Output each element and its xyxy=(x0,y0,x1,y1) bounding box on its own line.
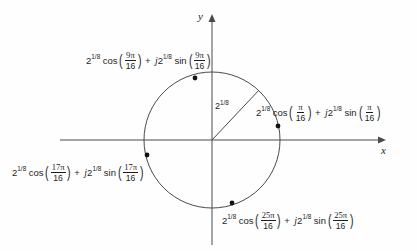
cos-function: cos xyxy=(273,108,288,118)
radius-exponent: 1/8 xyxy=(220,99,229,106)
paren-open-icon: ( xyxy=(328,215,332,227)
radius-segment xyxy=(212,91,259,141)
paren-close-icon: ) xyxy=(207,55,211,67)
angle-fraction: π 16 xyxy=(364,103,376,122)
angle-fraction: 9π 16 xyxy=(125,51,137,70)
paren-close-icon: ) xyxy=(277,215,281,227)
sin-function: sin xyxy=(314,216,326,226)
angle-numerator: 9π xyxy=(125,51,136,61)
label-point-17pi-16: 21/8 cos ( 17π 16 ) + j21/8 sin ( 17π 16… xyxy=(12,163,144,182)
angle-denominator: 16 xyxy=(364,113,376,122)
cos-function: cos xyxy=(239,216,254,226)
x-axis-label: x xyxy=(381,144,386,156)
mag-exponent-imag: 1/8 xyxy=(163,54,172,60)
mag-exponent-imag: 1/8 xyxy=(92,166,101,172)
mag-exponent-imag: 1/8 xyxy=(333,106,342,112)
plus-operator: + xyxy=(284,216,290,226)
paren-close-icon: ) xyxy=(377,107,381,119)
label-point-pi-16: 21/8 cos ( π 16 ) + j21/8 sin ( π 16 ) xyxy=(256,103,381,122)
point-marker-9pi-16 xyxy=(193,76,198,81)
cos-function: cos xyxy=(29,168,44,178)
plus-operator: + xyxy=(145,56,151,66)
angle-denominator: 16 xyxy=(125,61,137,70)
sin-function: sin xyxy=(344,108,356,118)
angle-denominator: 16 xyxy=(262,221,274,230)
angle-numerator: 17π xyxy=(123,163,138,173)
paren-open-icon: ( xyxy=(290,107,294,119)
label-point-25pi-16: 21/8 cos ( 25π 16 ) + j21/8 sin ( 25π 16… xyxy=(222,211,354,230)
plus-operator: + xyxy=(315,108,321,118)
angle-fraction: 25π 16 xyxy=(261,211,276,230)
angle-fraction: 17π 16 xyxy=(123,163,138,182)
angle-numerator: 25π xyxy=(261,211,276,221)
angle-numerator: 25π xyxy=(333,211,348,221)
paren-close-icon: ) xyxy=(138,55,142,67)
angle-fraction: 25π 16 xyxy=(333,211,348,230)
paren-open-icon: ( xyxy=(359,107,363,119)
y-axis-arrow xyxy=(209,14,216,22)
mag-exponent: 1/8 xyxy=(91,54,100,60)
paren-open-icon: ( xyxy=(46,167,50,179)
paren-open-icon: ( xyxy=(120,55,124,67)
angle-denominator: 16 xyxy=(125,173,137,182)
paren-open-icon: ( xyxy=(118,167,122,179)
angle-numerator: π xyxy=(297,103,303,113)
sin-function: sin xyxy=(174,56,186,66)
paren-close-icon: ) xyxy=(67,167,71,179)
paren-close-icon: ) xyxy=(350,215,354,227)
angle-numerator: 9π xyxy=(194,51,205,61)
point-marker-25pi-16 xyxy=(230,201,235,206)
angle-denominator: 16 xyxy=(194,61,206,70)
mag-exponent-imag: 1/8 xyxy=(302,214,311,220)
sin-function: sin xyxy=(104,168,116,178)
plus-operator: + xyxy=(74,168,80,178)
paren-close-icon: ) xyxy=(140,167,144,179)
label-point-9pi-16: 21/8 cos ( 9π 16 ) + j21/8 sin ( 9π 16 ) xyxy=(86,51,211,70)
point-marker-pi-16 xyxy=(276,124,281,129)
complex-plane-figure: y x 21/8 21/8 cos ( 9π 16 ) + j21/8 sin … xyxy=(0,0,417,251)
paren-open-icon: ( xyxy=(256,215,260,227)
point-marker-17pi-16 xyxy=(145,153,150,158)
angle-fraction: 17π 16 xyxy=(51,163,66,182)
angle-denominator: 16 xyxy=(52,173,64,182)
plot-canvas xyxy=(0,0,417,251)
mag-exponent: 1/8 xyxy=(227,214,236,220)
angle-numerator: 17π xyxy=(51,163,66,173)
mag-exponent: 1/8 xyxy=(261,106,270,112)
cos-function: cos xyxy=(103,56,118,66)
paren-open-icon: ( xyxy=(189,55,193,67)
angle-denominator: 16 xyxy=(335,221,347,230)
angle-numerator: π xyxy=(366,103,372,113)
angle-fraction: π 16 xyxy=(295,103,307,122)
angle-denominator: 16 xyxy=(295,113,307,122)
radius-label: 21/8 xyxy=(215,100,229,111)
mag-exponent: 1/8 xyxy=(17,166,26,172)
y-axis-label: y xyxy=(198,10,203,22)
paren-close-icon: ) xyxy=(308,107,312,119)
x-axis-arrow xyxy=(378,137,386,144)
angle-fraction: 9π 16 xyxy=(194,51,206,70)
